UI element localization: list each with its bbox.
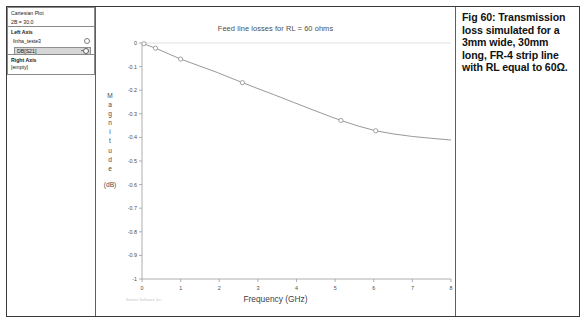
- plot-caption-divider: [455, 7, 456, 316]
- y-tick-label: -0.9: [128, 252, 137, 258]
- left-axis-section: Left Axis linha_teste3 DB[S21]: [7, 26, 95, 55]
- x-tick-label: 2: [218, 285, 221, 291]
- x-tick-label: 7: [411, 285, 414, 291]
- y-tick-label: -0.7: [128, 205, 137, 211]
- data-point-marker: [179, 57, 183, 61]
- y-tick-label: -0.1: [128, 64, 137, 70]
- trace-name: DB[S21]: [16, 48, 36, 55]
- screenshot-root: Cartesian Plot 2B = 30.0 Left Axis linha…: [0, 0, 586, 323]
- y-tick-label: -0.8: [128, 229, 137, 235]
- x-tick-label: 3: [256, 285, 259, 291]
- x-tick-label: 4: [295, 285, 298, 291]
- data-point-marker: [240, 81, 244, 85]
- data-point-marker: [374, 129, 378, 133]
- y-tick-label: -0.3: [128, 111, 137, 117]
- watermark-text: Sonnet Software Inc.: [126, 298, 162, 302]
- y-tick-label: -0.6: [128, 182, 137, 188]
- right-axis-label: Right Axis: [11, 57, 91, 64]
- plot-info-box: Cartesian Plot 2B = 30.0: [7, 7, 95, 27]
- visibility-toggle-icon[interactable]: [84, 38, 90, 44]
- y-tick-label: 0: [134, 40, 137, 46]
- right-axis-value: [empty]: [11, 64, 91, 71]
- data-point-marker: [142, 42, 146, 46]
- chart-area: Feed line losses for RL = 60 ohms Magnit…: [96, 7, 455, 316]
- y-tick-label: -0.2: [128, 87, 137, 93]
- x-tick-label: 5: [334, 285, 337, 291]
- x-tick-label: 1: [179, 285, 182, 291]
- data-point-marker: [339, 118, 343, 122]
- trace-visibility-toggle-icon[interactable]: [83, 48, 89, 54]
- x-tick-label: 6: [372, 285, 375, 291]
- project-name: linha_teste3: [12, 38, 41, 45]
- data-series-line: [144, 44, 451, 140]
- plot-svg: 0-0.1-0.2-0.3-0.4-0.5-0.6-0.7-0.8-0.9-10…: [96, 7, 455, 316]
- cartesian-plot-control-panel: Cartesian Plot 2B = 30.0 Left Axis linha…: [7, 7, 95, 91]
- panel-subtitle: 2B = 30.0: [11, 19, 91, 26]
- project-row[interactable]: linha_teste3: [11, 38, 91, 45]
- x-tick-label: 8: [450, 285, 453, 291]
- y-tick-label: -0.5: [128, 158, 137, 164]
- y-tick-label: -0.4: [128, 134, 137, 140]
- figure-caption: Fig 60: Transmission loss simulated for …: [462, 11, 574, 74]
- right-axis-section: Right Axis [empty]: [7, 54, 95, 75]
- left-axis-label: Left Axis: [11, 29, 91, 36]
- data-point-marker: [153, 46, 157, 50]
- x-tick-label: 0: [141, 285, 144, 291]
- panel-title: Cartesian Plot: [11, 10, 91, 17]
- y-tick-label: -1: [132, 276, 137, 282]
